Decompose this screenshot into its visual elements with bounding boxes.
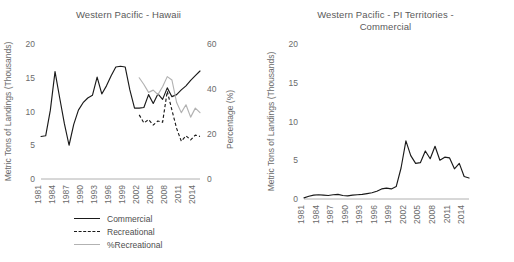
chart-legend: Commercial Recreational %Recreational: [74, 212, 224, 251]
x-axis-tick-label: 1990: [75, 185, 85, 204]
x-axis-tick-label: 1987: [61, 185, 71, 204]
x-axis-tick-label: 2014: [187, 185, 197, 204]
x-axis-tick-label: 1984: [47, 185, 57, 204]
y-axis-tick-label: 15: [26, 73, 36, 83]
legend-label-recreational: Recreational: [107, 227, 155, 237]
y-axis-tick-label: 0: [30, 174, 35, 184]
x-axis-tick-label: 1990: [340, 205, 350, 224]
x-axis-tick-label: 1996: [369, 205, 379, 224]
series-line-commercial: [41, 66, 200, 145]
series-line-commercial: [304, 141, 469, 198]
y-axis-title: Metric Tons of Landings (Thousands): [266, 51, 276, 191]
y-axis-tick-label: 0: [293, 194, 298, 204]
x-axis-tick-label: 2008: [427, 205, 437, 224]
x-axis-tick-label: 2005: [412, 205, 422, 224]
x-axis-tick-label: 1981: [33, 185, 43, 204]
x-axis-tick-label: 1993: [89, 185, 99, 204]
chart-plot-pi-territories: 05101520Metric Tons of Landings (Thousan…: [257, 0, 514, 262]
y2-axis-tick-label: 0: [207, 174, 212, 184]
legend-item-commercial: Commercial: [74, 212, 224, 225]
x-axis-tick-label: 1993: [354, 205, 364, 224]
y2-axis-tick-label: 60: [207, 39, 217, 49]
figure-container: Western Pacific - Hawaii 05101520Metric …: [0, 0, 514, 262]
legend-swatch-recreational-icon: [74, 227, 100, 237]
x-axis-tick-label: 2011: [442, 205, 452, 224]
x-axis-tick-label: 1987: [325, 205, 335, 224]
y-axis-tick-label: 20: [289, 39, 299, 49]
legend-label-pct-recreational: %Recreational: [107, 240, 162, 250]
y-axis-tick-label: 20: [26, 39, 36, 49]
x-axis-tick-label: 2005: [145, 185, 155, 204]
legend-item-recreational: Recreational: [74, 225, 224, 238]
y-axis-tick-label: 10: [289, 117, 299, 127]
legend-swatch-pct-recreational-icon: [74, 240, 100, 250]
x-axis-tick-label: 2014: [456, 205, 466, 224]
chart-panel-hawaii: Western Pacific - Hawaii 05101520Metric …: [0, 0, 257, 262]
chart-panel-pi-territories: Western Pacific - PI Territories - Comme…: [257, 0, 514, 262]
legend-item-pct-recreational: %Recreational: [74, 238, 224, 251]
x-axis-tick-label: 2002: [398, 205, 408, 224]
y-axis-tick-label: 10: [26, 107, 36, 117]
x-axis-tick-label: 2011: [173, 185, 183, 204]
x-axis-tick-label: 2008: [159, 185, 169, 204]
y-axis-tick-label: 15: [289, 78, 299, 88]
x-axis-tick-label: 1984: [311, 205, 321, 224]
y-axis-tick-label: 5: [293, 155, 298, 165]
legend-label-commercial: Commercial: [107, 214, 152, 224]
x-axis-tick-label: 1981: [296, 205, 306, 224]
x-axis-tick-label: 1999: [383, 205, 393, 224]
y2-axis-title: Percentage (%): [225, 90, 235, 149]
x-axis-tick-label: 1999: [117, 185, 127, 204]
x-axis-tick-label: 2002: [131, 185, 141, 204]
y2-axis-tick-label: 40: [207, 84, 217, 94]
legend-swatch-commercial-icon: [74, 214, 100, 224]
x-axis-tick-label: 1996: [103, 185, 113, 204]
y-axis-title: Metric Tons of Landings (Thousands): [3, 41, 13, 181]
y-axis-tick-label: 5: [30, 140, 35, 150]
y2-axis-tick-label: 20: [207, 129, 217, 139]
